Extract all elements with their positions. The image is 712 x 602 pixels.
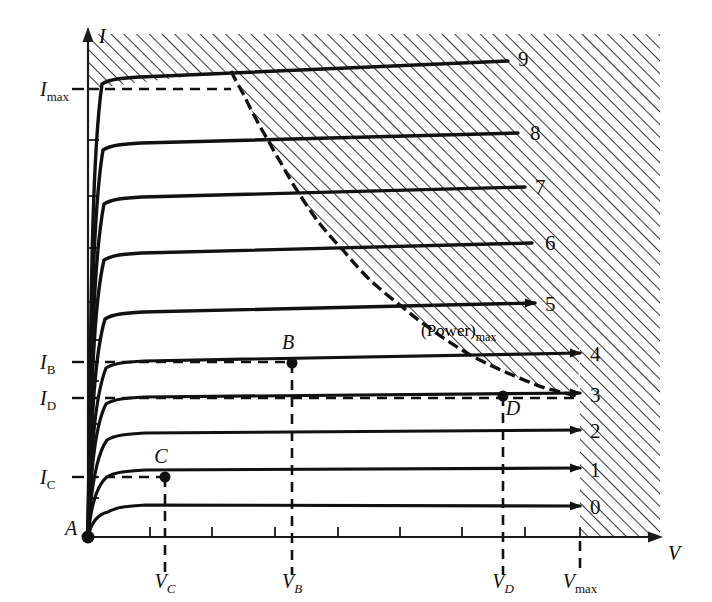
x-axis-tick-label-vc: VC [155,570,176,596]
curve-line-0 [88,505,580,537]
tick-label-text: ID [39,387,56,413]
point-label-C: C [154,445,168,467]
curve-label-1: 1 [590,458,601,482]
x-axis-label: V [668,542,683,564]
point-marker-C[interactable] [160,472,171,483]
x-axis-tick-label-vmax: Vmax [563,570,598,596]
tick-label-text: Imax [39,78,70,104]
y-axis-tick-label-ib: IB [39,351,84,377]
y-axis-label: I [98,25,107,47]
curve-label-8: 8 [530,121,541,145]
point-label-D: D [505,397,521,419]
curve-label-0: 0 [590,495,601,519]
point-label-B: B [282,331,294,353]
curve-label-7: 7 [535,175,546,199]
tick-label-text: VB [282,570,302,596]
curve-label-5: 5 [545,292,556,316]
tick-label-text: IC [39,466,55,492]
x-axis-tick-label-vd: VD [492,570,514,596]
tick-label-text: VD [492,570,514,596]
x-axis-tick-label-vb: VB [282,570,302,596]
tick-label-text: Vmax [563,570,598,596]
x-axis-ticks [150,527,580,537]
curve-label-4: 4 [590,342,601,366]
curve-label-2: 2 [590,419,601,443]
tick-label-text: VC [155,570,176,596]
figure-canvas: 0123456789 ABCD ImaxIBIDICVCVBVDVmax I V… [0,0,712,602]
point-label-A: A [63,517,78,539]
y-axis-tick-label-imax: Imax [39,78,84,104]
characteristic-curves-figure: 0123456789 ABCD ImaxIBIDICVCVBVDVmax I V… [0,0,712,602]
curve-label-9: 9 [518,47,529,71]
point-marker-B[interactable] [287,358,298,369]
curve-label-3: 3 [590,383,601,407]
y-axis-tick-label-ic: IC [39,466,84,492]
y-axis-tick-label-id: ID [39,387,84,413]
point-marker-A[interactable] [82,531,95,544]
tick-label-text: IB [39,351,56,377]
curve-label-6: 6 [545,231,556,255]
